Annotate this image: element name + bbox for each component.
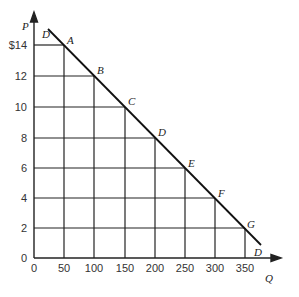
point-label-c: C	[128, 95, 136, 107]
point-label-f: F	[217, 187, 225, 199]
y-tick-labels: $14 12 10 8 6 4 2 0	[9, 39, 27, 264]
curve-label-top: D	[41, 28, 50, 40]
svg-text:50: 50	[58, 262, 70, 274]
point-labels: D A B C D E F G D	[41, 28, 262, 258]
svg-text:350: 350	[236, 262, 254, 274]
x-tick-labels: 0 50 100 150 200 250 300 350	[31, 262, 254, 274]
svg-text:0: 0	[21, 252, 27, 264]
y-axis-arrow-icon	[31, 12, 38, 22]
curve-label-bottom: D	[253, 246, 262, 258]
point-label-d: D	[157, 126, 166, 138]
svg-text:150: 150	[116, 262, 134, 274]
svg-text:2: 2	[21, 222, 27, 234]
svg-text:6: 6	[21, 162, 27, 174]
point-label-g: G	[247, 218, 255, 230]
point-label-a: A	[66, 34, 74, 46]
svg-text:100: 100	[85, 262, 103, 274]
point-label-e: E	[187, 157, 195, 169]
svg-text:$14: $14	[9, 39, 27, 51]
x-axis-label: Q	[265, 272, 273, 284]
y-axis-label: P	[21, 20, 29, 32]
point-label-b: B	[97, 64, 104, 76]
demand-chart: $14 12 10 8 6 4 2 0 0 50 100 150 200 250…	[0, 0, 299, 297]
svg-text:4: 4	[21, 192, 27, 204]
x-axis-arrow-icon	[271, 255, 281, 262]
svg-text:12: 12	[15, 70, 27, 82]
svg-text:300: 300	[206, 262, 224, 274]
svg-text:0: 0	[31, 262, 37, 274]
svg-text:200: 200	[146, 262, 164, 274]
grid-lines	[34, 45, 245, 258]
svg-text:10: 10	[15, 101, 27, 113]
svg-text:250: 250	[176, 262, 194, 274]
svg-text:8: 8	[21, 132, 27, 144]
